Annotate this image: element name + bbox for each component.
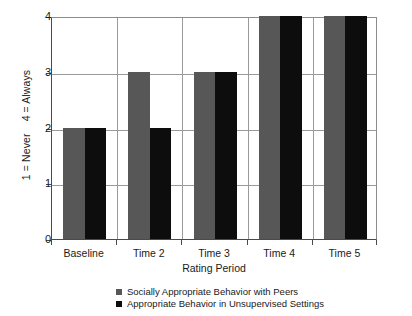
y-tick-label: 0 [33, 234, 51, 245]
legend-swatch-icon [116, 301, 122, 307]
gridline-vertical [248, 18, 249, 239]
bar-baseline-series-1 [85, 128, 107, 240]
bar-time-2-series-1 [150, 128, 172, 240]
legend-label: Appropriate Behavior in Unsupervised Set… [127, 298, 324, 309]
x-tick-mark [51, 240, 52, 245]
y-tick-label: 3 [33, 67, 51, 78]
bar-time-4-series-0 [259, 16, 281, 239]
x-tick-label-baseline: Baseline [51, 247, 116, 260]
x-axis-tick-labels: BaselineTime 2Time 3Time 4Time 5 [51, 247, 377, 261]
x-axis-title: Rating Period [51, 262, 377, 275]
x-tick-mark [376, 240, 377, 245]
bar-time-2-series-0 [128, 72, 150, 239]
bar-time-3-series-1 [215, 72, 237, 239]
legend-label: Socially Appropriate Behavior with Peers [127, 286, 298, 297]
y-tick-label: 2 [33, 123, 51, 134]
gridline-vertical [182, 18, 183, 239]
chart-legend: Socially Appropriate Behavior with Peers… [116, 286, 356, 310]
y-tick-label: 4 [33, 11, 51, 22]
bar-time-5-series-1 [345, 16, 367, 239]
gridline-vertical [117, 18, 118, 239]
x-tick-label-time-4: Time 4 [247, 247, 312, 260]
bar-time-4-series-1 [280, 16, 302, 239]
y-axis-ticks: 01234 [26, 0, 51, 316]
x-tick-mark [116, 240, 117, 245]
x-tick-mark [181, 240, 182, 245]
bar-baseline-series-0 [63, 128, 85, 240]
y-tick-label: 1 [33, 178, 51, 189]
legend-item-series-1: Appropriate Behavior in Unsupervised Set… [116, 298, 356, 309]
x-tick-mark [312, 240, 313, 245]
gridline-vertical [313, 18, 314, 239]
x-tick-mark [247, 240, 248, 245]
x-tick-label-time-2: Time 2 [116, 247, 181, 260]
legend-swatch-icon [116, 289, 122, 295]
x-tick-label-time-3: Time 3 [181, 247, 246, 260]
bar-time-3-series-0 [194, 72, 216, 239]
bar-chart-figure: 1 = Never 4 = Always 01234 BaselineTime … [0, 0, 412, 316]
x-tick-label-time-5: Time 5 [312, 247, 377, 260]
legend-item-series-0: Socially Appropriate Behavior with Peers [116, 286, 356, 297]
bar-time-5-series-0 [324, 16, 346, 239]
plot-area [51, 17, 377, 240]
